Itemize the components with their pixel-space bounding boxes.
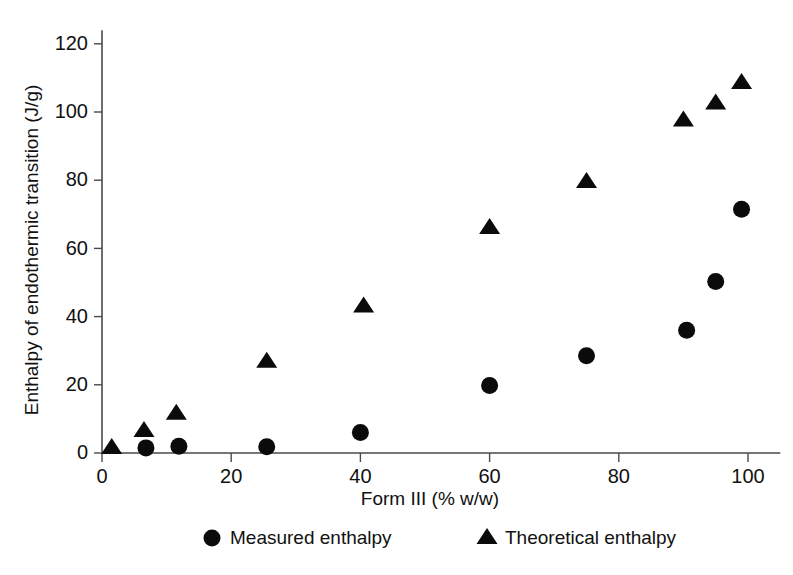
circle-marker-icon bbox=[707, 273, 724, 290]
triangle-marker-icon bbox=[353, 296, 374, 312]
triangle-marker-icon bbox=[576, 172, 597, 188]
chart-legend: Measured enthalpyTheoretical enthalpy bbox=[204, 527, 677, 548]
x-axis-title: Form III (% w/w) bbox=[361, 488, 499, 509]
y-axis-tick-label: 20 bbox=[66, 373, 88, 395]
triangle-marker-icon bbox=[673, 111, 694, 127]
x-axis-tick-label: 80 bbox=[608, 465, 630, 487]
y-axis-tick-label: 60 bbox=[66, 237, 88, 259]
circle-marker-icon bbox=[352, 424, 369, 441]
circle-marker-icon bbox=[258, 438, 275, 455]
circle-marker-icon bbox=[137, 439, 154, 456]
y-axis-tick-label: 120 bbox=[55, 32, 88, 54]
circle-marker-icon bbox=[578, 347, 595, 364]
x-axis-tick-label: 0 bbox=[96, 465, 107, 487]
y-axis: 020406080100120 bbox=[55, 30, 102, 463]
x-axis: 020406080100 bbox=[96, 453, 780, 487]
circle-marker-icon bbox=[678, 322, 695, 339]
triangle-marker-icon bbox=[133, 421, 154, 437]
y-axis-tick-label: 0 bbox=[77, 441, 88, 463]
circle-marker-icon bbox=[204, 530, 221, 547]
triangle-marker-icon bbox=[705, 94, 726, 110]
legend-item-theoretical[interactable]: Theoretical enthalpy bbox=[477, 527, 677, 548]
legend-label: Theoretical enthalpy bbox=[505, 527, 677, 548]
series-theoretical bbox=[101, 73, 752, 454]
x-axis-tick-label: 100 bbox=[731, 465, 764, 487]
y-axis-tick-label: 40 bbox=[66, 305, 88, 327]
scatter-chart-figure: 020406080100120 020406080100 Form III (%… bbox=[0, 0, 793, 575]
legend-label: Measured enthalpy bbox=[230, 527, 392, 548]
circle-marker-icon bbox=[733, 201, 750, 218]
y-axis-title: Enthalpy of endothermic transition (J/g) bbox=[21, 85, 42, 416]
triangle-marker-icon bbox=[731, 73, 752, 89]
triangle-marker-icon bbox=[101, 438, 122, 454]
x-axis-tick-label: 60 bbox=[478, 465, 500, 487]
legend-item-measured[interactable]: Measured enthalpy bbox=[204, 527, 393, 548]
y-axis-tick-label: 100 bbox=[55, 100, 88, 122]
triangle-marker-icon bbox=[477, 528, 498, 544]
triangle-marker-icon bbox=[479, 218, 500, 234]
chart-canvas: 020406080100120 020406080100 Form III (%… bbox=[0, 0, 793, 575]
circle-marker-icon bbox=[170, 438, 187, 455]
triangle-marker-icon bbox=[166, 404, 187, 420]
circle-marker-icon bbox=[481, 377, 498, 394]
y-axis-tick-label: 80 bbox=[66, 168, 88, 190]
x-axis-tick-label: 20 bbox=[220, 465, 242, 487]
series-measured bbox=[137, 201, 750, 457]
triangle-marker-icon bbox=[256, 352, 277, 368]
x-axis-tick-label: 40 bbox=[349, 465, 371, 487]
data-points-layer bbox=[101, 73, 752, 456]
